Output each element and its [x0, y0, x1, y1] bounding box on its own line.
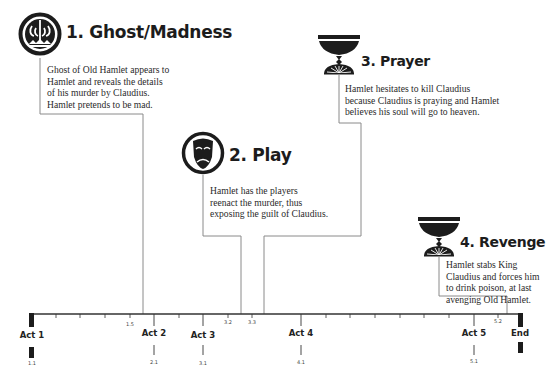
scene-label: 1.1: [28, 360, 36, 366]
scene-mark: 3.3: [248, 319, 256, 325]
scene-mark: 1.5: [126, 321, 134, 327]
chalice-icon: [418, 217, 460, 257]
scene-label: 5.1: [470, 358, 478, 364]
end-bar: [518, 313, 523, 327]
event-desc-play: Hamlet has the players reenact the murde…: [210, 185, 328, 220]
desc-line: Hamlet pretends to be mad.: [47, 99, 169, 111]
act-label-2: Act 2: [142, 328, 167, 338]
event-title-ghost: 1. Ghost/Madness: [66, 22, 232, 42]
event-desc-prayer: Hamlet hesitates to kill Claudius becaus…: [345, 83, 499, 118]
act-label-4: Act 4: [289, 328, 314, 338]
scene-mark: 5.2: [494, 318, 502, 324]
act-label-1: Act 1: [20, 330, 45, 340]
chalice-icon: [318, 35, 360, 75]
desc-line: Hamlet and reveals the details: [47, 76, 169, 88]
event-desc-revenge: Hamlet stabs King Claudius and forces hi…: [446, 259, 540, 305]
scene-label: 3.1: [199, 360, 207, 366]
act1-start-bar: [29, 313, 34, 327]
desc-line: exposing the guilt of Claudius.: [210, 208, 328, 220]
desc-line: avenging Old Hamlet.: [446, 294, 540, 306]
desc-line: because Claudius is praying and Hamlet: [345, 95, 499, 107]
end-label: End: [511, 328, 529, 338]
desc-line: Hamlet hesitates to kill Claudius: [345, 83, 499, 95]
desc-line: Claudius and forces him: [446, 271, 540, 283]
desc-line: of his murder by Claudius.: [47, 87, 169, 99]
act1-lower-bar: [29, 347, 34, 358]
ghost-crown-icon: [18, 12, 62, 56]
desc-line: Hamlet stabs King: [446, 259, 540, 271]
scene-label: 4.1: [297, 359, 305, 365]
event-title-prayer: 3. Prayer: [361, 53, 430, 69]
desc-line: Ghost of Old Hamlet appears to: [47, 64, 169, 76]
event-title-play: 2. Play: [229, 145, 291, 165]
desc-line: Hamlet has the players: [210, 185, 328, 197]
act-label-5: Act 5: [462, 328, 487, 338]
theater-mask-icon: [181, 131, 225, 175]
scene-label: 2.1: [150, 359, 158, 365]
scene-mark: 3.2: [224, 319, 232, 325]
desc-line: to drink poison, at last: [446, 282, 540, 294]
desc-line: believes his soul will go to heaven.: [345, 106, 499, 118]
act-label-3: Act 3: [191, 330, 216, 340]
end-lower-bar: [518, 342, 523, 353]
event-title-revenge: 4. Revenge: [460, 234, 545, 250]
desc-line: reenact the murder, thus: [210, 197, 328, 209]
event-desc-ghost: Ghost of Old Hamlet appears to Hamlet an…: [47, 64, 169, 110]
